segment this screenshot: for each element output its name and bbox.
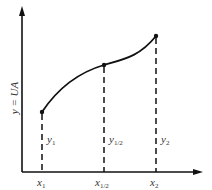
x-half-label: x1/2 [94,176,109,190]
y-axis-label: y = UA [8,81,20,115]
y-half-label: y1/2 [108,133,123,147]
y-axis-arrow-icon [19,6,25,16]
point-x2 [154,34,158,38]
y1-label: y1 [46,133,56,147]
point-x1 [40,110,44,114]
y2-label: y2 [160,133,170,147]
x-axis-arrow-icon [193,169,203,175]
x2-label: x2 [149,176,159,190]
curve [42,36,156,112]
point-x-half [102,63,106,67]
diagram: y = UA y1 y1/2 y2 x1 x1/2 x2 [0,0,212,190]
x1-label: x1 [36,176,46,190]
